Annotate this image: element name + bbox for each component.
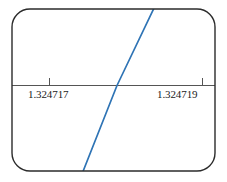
x-tick-label-left: 1.324717 [28,88,68,100]
x-tick-label-right: 1.324719 [157,88,197,100]
graph-viewport: 1.324717 1.324719 [0,0,227,182]
